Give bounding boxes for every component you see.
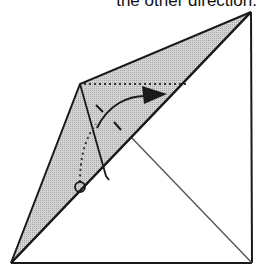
crease-line — [131, 137, 252, 263]
origami-diagram — [0, 0, 261, 279]
